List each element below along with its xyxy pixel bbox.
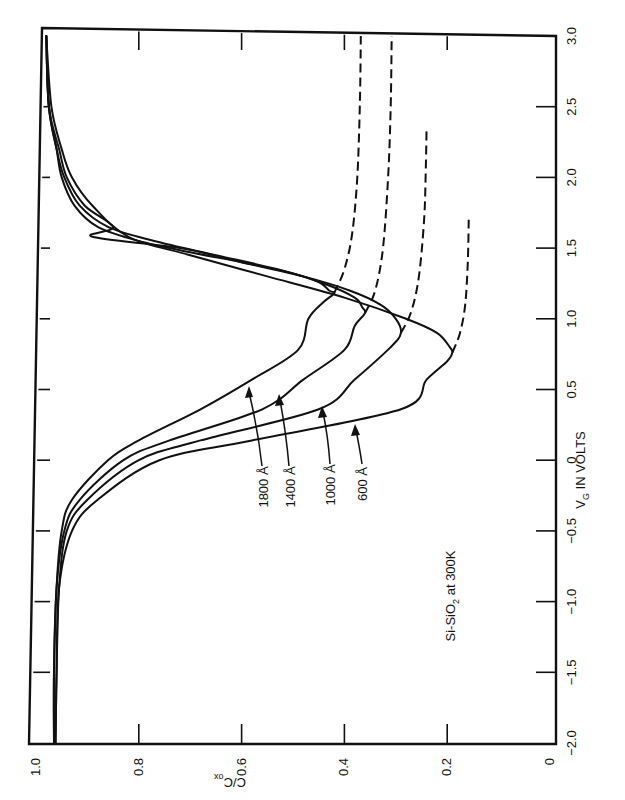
x-tick-label: 1.5 [564,239,579,257]
y-tick-label: 1.0 [28,758,43,776]
x-tick-label: 2.0 [564,168,579,186]
y-tick-label: 0 [542,758,557,765]
curve-1400-dashed [365,36,392,313]
y-tick-label: 0.4 [336,758,351,776]
svg-text:0: 0 [542,758,557,765]
arrow-1000 [323,412,330,464]
y-title-main: C/C [224,775,246,790]
arrow-1800 [249,392,262,466]
y-tick-label: 0.6 [234,758,249,776]
svg-text:−1.5: −1.5 [564,659,579,685]
svg-text:600 Å: 600 Å [355,467,370,501]
curves [46,36,469,743]
x-title-main: V [573,500,588,509]
arrow-head-1800-icon [245,386,253,398]
svg-text:1000 Å: 1000 Å [323,464,338,506]
svg-text:1.0: 1.0 [28,758,43,776]
x-title-rest: IN VOLTS [573,431,588,493]
y-tick-label: 0.8 [131,758,146,776]
x-title-sub: G [581,493,591,500]
svg-text:0.8: 0.8 [131,758,146,776]
curve-1000-solid [46,36,401,743]
x-tick-label: −1.5 [564,659,579,685]
x-tick-label: −0.5 [564,518,579,544]
svg-text:3.0: 3.0 [564,27,579,45]
svg-text:0.4: 0.4 [336,758,351,776]
curve-1000-dashed [401,127,427,333]
annotation-main: Si-SiO [443,604,458,642]
x-tick-label: 2.5 [564,98,579,116]
axis-tick-labels: −2.0−1.5−1.0−0.500.51.01.52.02.53.000.20… [28,27,579,776]
label-1000: 1000 Å [323,464,338,506]
svg-text:1.0: 1.0 [564,310,579,328]
svg-text:0.6: 0.6 [234,758,249,776]
x-tick-label: −2.0 [564,730,579,756]
svg-text:Si-SiO2 at 300K: Si-SiO2 at 300K [443,550,461,641]
plot-frame [29,28,556,744]
svg-text:1800 Å: 1800 Å [256,466,271,508]
label-1800: 1800 Å [256,466,271,508]
annotation-si-sio2: Si-SiO2 at 300K [443,550,461,641]
arrow-head-600-icon [351,424,360,436]
plot-border [29,28,556,744]
annotation-rest: at 300K [443,550,458,599]
thickness-labels: 1800 Å 1400 Å 1000 Å 600 Å [245,386,370,508]
x-tick-label: 1.0 [564,310,579,328]
x-tick-label: −1.0 [564,589,579,615]
svg-text:1400 Å: 1400 Å [283,466,298,508]
label-1400: 1400 Å [283,466,298,508]
curve-1800-dashed [334,36,361,293]
svg-text:−1.0: −1.0 [564,589,579,615]
curve-1400-solid [46,36,365,743]
x-tick-label: 0.5 [564,380,579,398]
x-axis-title: VG IN VOLTS [573,431,591,509]
svg-text:0.5: 0.5 [564,380,579,398]
svg-text:2.5: 2.5 [564,98,579,116]
svg-text:VG IN VOLTS: VG IN VOLTS [573,431,591,509]
curve-600-dashed [452,217,469,353]
label-600: 600 Å [355,467,370,501]
y-title-sub: ox [214,772,224,782]
arrow-head-1000-icon [318,406,327,418]
y-tick-label: 0.2 [439,758,454,776]
svg-text:1.5: 1.5 [564,239,579,257]
cv-curve-chart: −2.0−1.5−1.0−0.500.51.01.52.02.53.000.20… [0,0,625,800]
svg-text:−2.0: −2.0 [564,730,579,756]
svg-text:−0.5: −0.5 [564,518,579,544]
svg-text:0.2: 0.2 [439,758,454,776]
svg-text:2.0: 2.0 [564,168,579,186]
x-tick-label: 3.0 [564,27,579,45]
